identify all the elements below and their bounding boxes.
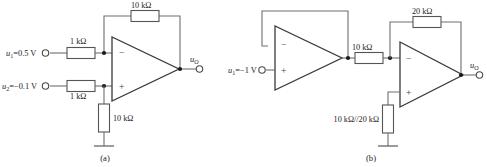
circuit-a-input2-branch — [42, 81, 112, 92]
node-a-inverting — [102, 51, 106, 55]
circuit-b-series-branch — [342, 53, 400, 64]
opamp-b1-inverting-pin: − — [281, 40, 286, 50]
node-b-output — [459, 73, 463, 77]
wire-b-noninv-down — [388, 92, 400, 105]
caption-a: (a) — [100, 153, 110, 163]
resistor-b-series-body — [355, 53, 383, 64]
resistor-a-ground-body — [99, 104, 110, 132]
circuit-a-output-branch — [178, 66, 203, 72]
circuit-figure: u1=0.5 V u2=−0.1 V 1 kΩ 1 kΩ 10 kΩ 10 kΩ… — [0, 0, 487, 167]
circuit-a-group — [42, 11, 202, 147]
opamp-b1 — [275, 26, 342, 90]
circuit-b-input-branch — [259, 67, 275, 73]
label-resistor-a-in2: 1 kΩ — [70, 92, 86, 101]
resistor-b-balance-body — [383, 105, 394, 133]
label-a-output: uO — [190, 55, 199, 65]
node-a-output — [178, 67, 182, 71]
opamp-a-inverting-pin: − — [119, 48, 124, 58]
terminal-b-u1 — [259, 67, 265, 73]
label-b-output-sub: O — [474, 65, 479, 71]
terminal-b-output — [476, 72, 482, 78]
circuit-b-output-branch — [459, 72, 483, 78]
terminal-u2 — [42, 83, 48, 89]
label-a-source-u1: u1=0.5 V — [6, 49, 36, 59]
opamp-b1-noninverting-pin: + — [281, 66, 286, 76]
label-resistor-b-series: 10 kΩ — [352, 43, 372, 52]
label-resistor-b-balance: 10 kΩ//20 kΩ — [334, 115, 379, 124]
opamp-a-noninverting-pin: + — [119, 82, 124, 92]
circuit-b-group — [259, 11, 483, 146]
resistor-b-feedback-body — [413, 17, 441, 28]
label-a-source-u2: u2=−0.1 V — [2, 82, 37, 92]
label-resistor-a-ground: 10 kΩ — [113, 114, 133, 123]
circuit-canvas: u1=0.5 V u2=−0.1 V 1 kΩ 1 kΩ 10 kΩ 10 kΩ… — [0, 0, 487, 167]
circuit-a-input1-branch — [42, 48, 112, 59]
opamp-b2-inverting-pin: − — [406, 54, 411, 64]
resistor-a-in2-body — [67, 81, 95, 92]
label-a-source-u1-value: =0.5 V — [13, 49, 36, 58]
label-a-source-u2-value: =−0.1 V — [9, 82, 37, 91]
resistor-a-in1-body — [67, 48, 95, 59]
label-b-output: uO — [470, 61, 479, 71]
label-b-source-u1: u1=−1 V — [228, 66, 257, 76]
resistor-a-feedback-body — [131, 11, 159, 22]
label-resistor-b-feedback: 20 kΩ — [412, 7, 432, 16]
node-b-buffer-output — [346, 56, 350, 60]
terminal-a-output — [196, 66, 202, 72]
circuit-b-balance-branch — [378, 92, 400, 146]
opamp-b1-triangle — [275, 26, 342, 90]
terminal-u1 — [42, 50, 48, 56]
label-resistor-a-in1: 1 kΩ — [70, 37, 86, 46]
opamp-b2-noninverting-pin: + — [406, 88, 411, 98]
label-resistor-a-feedback: 10 kΩ — [131, 1, 151, 10]
label-a-output-sub: O — [194, 59, 199, 65]
label-b-source-u1-value: =−1 V — [235, 66, 257, 75]
circuit-a-ground-branch — [94, 86, 114, 146]
caption-b: (b) — [366, 153, 376, 163]
